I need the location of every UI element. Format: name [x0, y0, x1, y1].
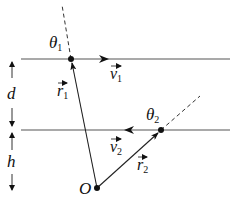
v2-label: v2 [110, 138, 122, 157]
svg-text:v2: v2 [110, 138, 122, 157]
r1-vector [72, 63, 97, 188]
particle-1-point [68, 56, 74, 62]
svg-text:r1: r1 [57, 82, 68, 101]
r2-vector [97, 133, 158, 188]
origin-point [94, 185, 100, 191]
theta1-label: θ1 [49, 33, 62, 53]
svg-text:r2: r2 [137, 156, 148, 175]
r2-label: r2 [137, 156, 148, 175]
d-label: d [7, 84, 16, 103]
theta2-label: θ2 [146, 105, 159, 125]
h-label: h [7, 152, 16, 171]
theta2-dashed-line [161, 96, 200, 130]
origin-label: O [79, 179, 91, 198]
physics-diagram: θ1 θ2 v1 r1 v2 r2 d h O [0, 0, 235, 201]
r1-label: r1 [57, 82, 68, 101]
svg-text:v1: v1 [110, 65, 122, 84]
particle-2-point [158, 127, 164, 133]
v1-label: v1 [110, 65, 122, 84]
theta1-dashed-line [62, 5, 71, 59]
